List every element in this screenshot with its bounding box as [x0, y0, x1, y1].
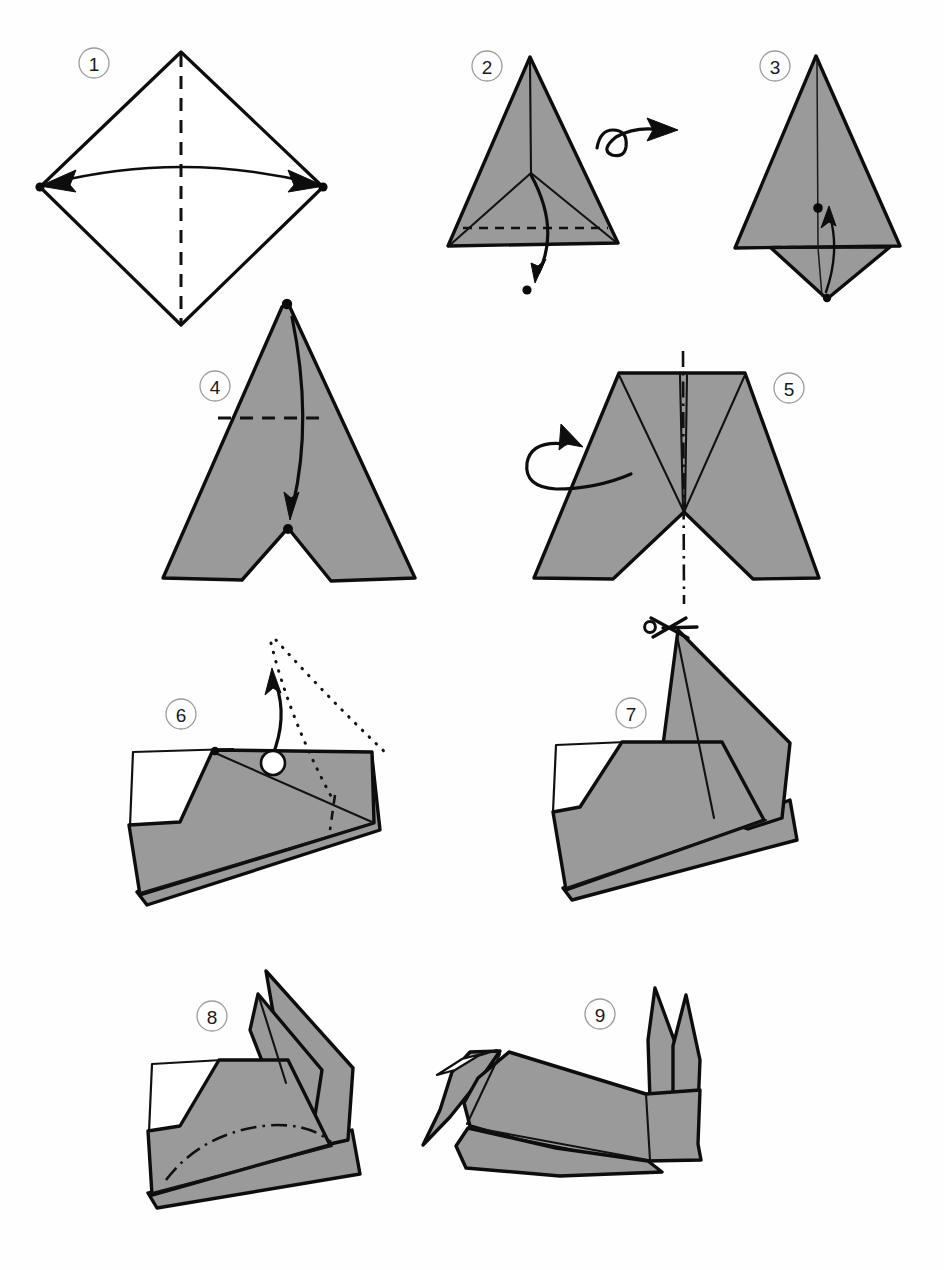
step-2-paper-triangle [448, 57, 618, 246]
step-5-mountain-fold-vertical [683, 351, 684, 604]
step-number-5: 5 [774, 373, 804, 403]
step-6-corner-dot [211, 747, 219, 755]
step-9-figure [423, 988, 701, 1176]
step-6-figure [129, 640, 388, 905]
step-1-vertex-dot-right [318, 182, 327, 191]
origami-diagram-sheet: 1 2 3 4 5 6 7 [0, 0, 944, 1270]
step-number-8: 8 [197, 1001, 227, 1031]
step-8-figure [148, 971, 360, 1208]
step-number-6: 6 [166, 699, 196, 729]
step-2-crease-centre [530, 62, 531, 173]
step-number-3-text: 3 [770, 57, 781, 78]
diagram-canvas: 1 2 3 4 5 6 7 [0, 0, 944, 1270]
step-4-figure [163, 299, 415, 581]
step-2-figure [448, 57, 678, 295]
step-number-5-text: 5 [784, 379, 795, 400]
step-6-pivot-circle [261, 751, 285, 775]
step-4-paper-body [163, 303, 415, 581]
step-3-tip-dot [823, 294, 831, 302]
step-number-2: 2 [472, 51, 502, 81]
step-2-turn-over-symbol [597, 118, 678, 156]
step-number-4-text: 4 [210, 377, 221, 398]
step-2-target-dot [522, 285, 531, 294]
step-number-6-text: 6 [176, 705, 187, 726]
step-number-8-text: 8 [207, 1007, 218, 1028]
step-4-apex-dot [282, 299, 292, 309]
step-number-4: 4 [200, 371, 230, 401]
step-4-target-dot [283, 524, 293, 534]
step-number-7-text: 7 [626, 704, 637, 725]
step-3-target-dot [813, 203, 823, 213]
step-7-scissors-icon [645, 618, 697, 638]
step-number-9: 9 [585, 999, 615, 1029]
step-number-7: 7 [616, 698, 646, 728]
step-2-arrow-head-down [531, 259, 546, 283]
step-number-9-text: 9 [595, 1005, 606, 1026]
step-number-3: 3 [760, 51, 790, 81]
step-1-figure [35, 52, 327, 325]
step-3-paper-flap [770, 247, 890, 299]
step-number-2-text: 2 [482, 57, 493, 78]
step-3-figure [735, 56, 900, 302]
step-3-crease-centre [817, 60, 818, 245]
step-6-hidden-outline-right [276, 640, 388, 755]
step-number-1: 1 [79, 48, 109, 78]
step-number-1-text: 1 [89, 54, 100, 75]
step-5-paper-body [534, 373, 819, 579]
step-1-vertex-dot-left [35, 182, 44, 191]
step-6-fold-arrow [272, 684, 281, 757]
step-7-figure [553, 618, 797, 900]
